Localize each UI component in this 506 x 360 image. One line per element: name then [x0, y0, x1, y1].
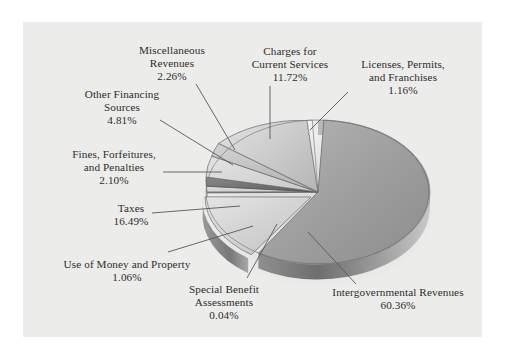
label-charges-percent: 11.72%: [230, 71, 350, 84]
label-miscellaneous-percent: 2.26%: [113, 70, 231, 83]
label-licenses-permits-and-franchises: Licenses, Permits, and Franchises 1.16%: [338, 58, 468, 98]
label-special-benefit-line2: Assessments: [195, 296, 253, 308]
label-fines-forfeitures-and-penalties: Fines, Forfeitures, and Penalties 2.10%: [38, 148, 190, 188]
label-miscellaneous-line2: Revenues: [150, 57, 194, 69]
label-charges-line2: Current Services: [252, 58, 328, 70]
chart-screenshot: Miscellaneous Revenues 2.26% Charges for…: [0, 0, 506, 360]
label-intergovernmental-percent: 60.36%: [308, 299, 488, 312]
label-special-benefit-line1: Special Benefit: [189, 283, 259, 295]
label-intergovernmental-line1: Intergovernmental Revenues: [332, 286, 463, 298]
label-other-financing-sources: Other Financing Sources 4.81%: [55, 88, 189, 128]
label-fines-line1: Fines, Forfeitures,: [72, 148, 156, 160]
label-licenses-line1: Licenses, Permits,: [361, 58, 445, 70]
leader-line-miscellaneous: [196, 84, 235, 150]
label-charges-for-current-services: Charges for Current Services 11.72%: [230, 45, 350, 85]
label-use-of-money-line1: Use of Money and Property: [64, 258, 191, 270]
label-licenses-line2: and Franchises: [369, 71, 437, 83]
label-other-financing-line1: Other Financing: [85, 88, 160, 100]
label-miscellaneous-line1: Miscellaneous: [139, 44, 205, 56]
label-miscellaneous-revenues: Miscellaneous Revenues 2.26%: [113, 44, 231, 84]
pie-chart: Miscellaneous Revenues 2.26% Charges for…: [0, 0, 506, 360]
label-charges-line1: Charges for: [263, 45, 316, 57]
label-fines-percent: 2.10%: [38, 174, 190, 187]
label-other-financing-percent: 4.81%: [55, 114, 189, 127]
label-special-benefit-percent: 0.04%: [163, 309, 285, 322]
label-intergovernmental-revenues: Intergovernmental Revenues 60.36%: [308, 286, 488, 312]
label-taxes-percent: 16.49%: [86, 215, 176, 228]
label-use-of-money-and-property: Use of Money and Property 1.06%: [29, 258, 225, 284]
label-taxes-line1: Taxes: [118, 202, 144, 214]
label-licenses-percent: 1.16%: [338, 84, 468, 97]
label-special-benefit-assessments: Special Benefit Assessments 0.04%: [163, 283, 285, 323]
label-taxes: Taxes 16.49%: [86, 202, 176, 228]
label-other-financing-line2: Sources: [104, 101, 140, 113]
label-fines-line2: and Penalties: [84, 161, 145, 173]
